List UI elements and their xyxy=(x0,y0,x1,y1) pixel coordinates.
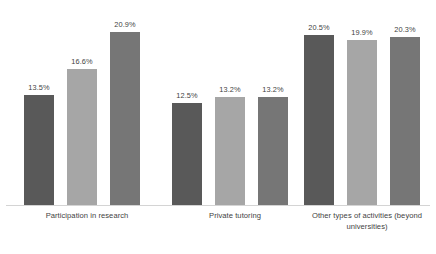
bar-rect[interactable] xyxy=(172,103,202,206)
bar-value-label: 13.2% xyxy=(262,85,283,94)
category-label-text: Other types of activities (beyond xyxy=(312,211,422,220)
bar-value-label: 20.5% xyxy=(308,23,329,32)
bar-chart: 13.5% 16.6% 20.9% 12.5% 13.2% xyxy=(0,0,436,254)
bar-rect[interactable] xyxy=(304,35,334,206)
bar-value-label: 20.3% xyxy=(394,25,415,34)
bar-rect[interactable] xyxy=(390,37,420,206)
category-label-text: Participation in research xyxy=(46,211,129,220)
bar-value-label: 19.9% xyxy=(351,28,372,37)
bar-group-other-types-of-activities: 20.5% 19.9% 20.3% xyxy=(304,0,430,206)
bar-rect[interactable] xyxy=(347,40,377,206)
bar-value-label: 20.9% xyxy=(114,20,135,29)
bar-value-label: 13.2% xyxy=(219,85,240,94)
x-axis-baseline xyxy=(6,205,430,206)
bar-rect[interactable] xyxy=(215,97,245,206)
category-axis-labels: Participation in research Private tutori… xyxy=(0,210,436,254)
category-label-participation-in-research: Participation in research xyxy=(17,210,157,221)
bar-group-private-tutoring: 12.5% 13.2% 13.2% xyxy=(172,0,298,206)
category-label-other-types-of-activities: Other types of activities (beyond univer… xyxy=(297,210,436,232)
category-label-private-tutoring: Private tutoring xyxy=(165,210,305,221)
bar-value-label: 12.5% xyxy=(176,91,197,100)
bar-rect[interactable] xyxy=(258,97,288,206)
plot-area: 13.5% 16.6% 20.9% 12.5% 13.2% xyxy=(0,0,436,206)
bar-rect[interactable] xyxy=(24,95,54,206)
bar-value-label: 16.6% xyxy=(71,57,92,66)
category-label-text: Private tutoring xyxy=(209,211,261,220)
bar-rect[interactable] xyxy=(110,32,140,206)
bar-rect[interactable] xyxy=(67,69,97,206)
bar-value-label: 13.5% xyxy=(28,83,49,92)
category-label-text-line-2: universities) xyxy=(346,222,387,231)
bar-group-participation-in-research: 13.5% 16.6% 20.9% xyxy=(24,0,150,206)
